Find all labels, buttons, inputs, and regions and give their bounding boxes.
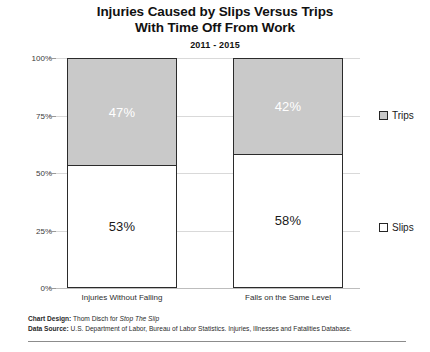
category-label-0: Injuries Without Falling <box>47 293 197 302</box>
bar-value-label-trips-0: 47% <box>109 105 136 120</box>
footer-divider <box>28 341 406 342</box>
ytick-label-25: 25% <box>6 226 52 235</box>
footer-block: Chart Design: Thom Disch for Stop The Sl… <box>28 314 418 334</box>
gridline-baseline-0 <box>56 288 360 289</box>
bar-segment-slips-0[interactable]: 53% <box>67 166 177 288</box>
legend-item-trips[interactable]: Trips <box>379 110 414 121</box>
category-label-1: Falls on the Same Level <box>213 293 363 302</box>
bar-segment-slips-1[interactable]: 58% <box>233 155 343 288</box>
footer-chart-design-value: Thom Disch for <box>73 315 118 322</box>
chart-plot-wrapper: 100% 75% 50% 25% 0% 47% 53% 42% 58% <box>0 0 430 352</box>
bar-value-label-slips-0: 53% <box>109 219 136 234</box>
footer-chart-design-key: Chart Design: <box>28 315 71 322</box>
ytick-label-100: 100% <box>6 54 52 63</box>
legend-swatch-slips-icon <box>379 223 388 232</box>
footer-data-source-value: U.S. Department of Labor, Bureau of Labo… <box>71 325 352 332</box>
footer-chart-design-line: Chart Design: Thom Disch for Stop The Sl… <box>28 314 418 324</box>
bar-value-label-slips-1: 58% <box>275 213 302 228</box>
bar-value-label-trips-1: 42% <box>275 99 302 114</box>
bar-group-falls-on-the-same-level[interactable]: 42% 58% <box>233 58 343 288</box>
ytick-label-0: 0% <box>6 284 52 293</box>
bar-segment-trips-0[interactable]: 47% <box>67 58 177 166</box>
bar-segment-trips-1[interactable]: 42% <box>233 58 343 155</box>
legend-label-slips: Slips <box>392 222 414 233</box>
legend-swatch-trips-icon <box>379 111 388 120</box>
ytick-label-50: 50% <box>6 169 52 178</box>
ytick-label-75: 75% <box>6 111 52 120</box>
legend-label-trips: Trips <box>392 110 414 121</box>
plot-area: 47% 53% 42% 58% <box>56 58 360 288</box>
footer-data-source-key: Data Source: <box>28 325 69 332</box>
footer-data-source-line: Data Source: U.S. Department of Labor, B… <box>28 324 418 334</box>
legend-item-slips[interactable]: Slips <box>379 222 414 233</box>
bar-group-injuries-without-falling[interactable]: 47% 53% <box>67 58 177 288</box>
footer-chart-design-publication: Stop The Slip <box>120 315 160 322</box>
